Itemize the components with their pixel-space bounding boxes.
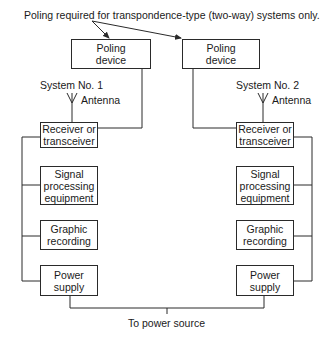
receiver-2: Receiver or transceiver [236,122,294,148]
power-supply-2-label: Power supply [245,269,285,293]
power-supply-1-label: Power supply [49,269,89,293]
power-source-label: To power source [128,317,205,329]
power-supply-2: Power supply [236,265,294,296]
poling-device-1: Poling device [71,39,151,69]
power-supply-1: Power supply [40,265,98,296]
signal-processing-2: Signal processing equipment [236,166,294,205]
signal-processing-1: Signal processing equipment [40,166,98,205]
graphic-recording-2: Graphic recording [236,220,294,250]
power-source-line [70,296,264,308]
antenna-1-label: Antenna [81,94,120,106]
graphic-recording-2-label: Graphic recording [237,223,293,247]
receiver-2-label: Receiver or transceiver [237,123,293,147]
system-1-label: System No. 1 [40,79,103,91]
signal-processing-1-label: Signal processing equipment [41,168,97,204]
graphic-recording-1-label: Graphic recording [41,223,97,247]
graphic-recording-1: Graphic recording [40,220,98,250]
bus-left [22,137,40,281]
receiver-1: Receiver or transceiver [40,122,98,148]
poling-device-2: Poling device [182,39,260,69]
poling-device-2-label: Poling device [196,42,246,66]
system-2-label: System No. 2 [236,79,299,91]
arrow-to-poling-2 [92,21,181,38]
caption: Poling required for transpondence-type (… [24,9,320,21]
antenna-2-label: Antenna [272,94,311,106]
poling-device-1-label: Poling device [86,42,136,66]
signal-processing-2-label: Signal processing equipment [237,168,293,204]
bus-right [293,137,312,281]
poling-link-2 [193,68,236,128]
receiver-1-label: Receiver or transceiver [41,123,97,147]
